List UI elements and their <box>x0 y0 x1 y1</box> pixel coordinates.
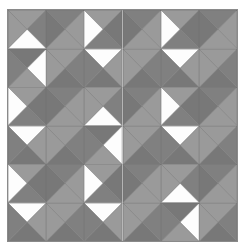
quilt-cell <box>8 10 46 49</box>
quilt-cell <box>46 126 84 165</box>
quilt-cell <box>199 164 237 203</box>
quilt-cell <box>123 10 161 49</box>
quilt-cell <box>84 87 122 126</box>
quilt-cell <box>8 87 46 126</box>
quilt-cell <box>46 10 84 49</box>
quilt-cell <box>46 203 84 242</box>
quilt-cell <box>123 203 161 242</box>
quilt-cell <box>8 203 46 242</box>
quilt-cell <box>84 203 122 242</box>
quilt-cell <box>161 126 199 165</box>
quilt-cell <box>199 49 237 88</box>
quilt-pattern-figure <box>0 0 244 250</box>
quilt-cell <box>8 164 46 203</box>
quilt-cell <box>84 164 122 203</box>
quilt-cell <box>123 87 161 126</box>
quilt-cell <box>199 203 237 242</box>
quilt-grid <box>8 10 237 241</box>
quilt-cell <box>8 49 46 88</box>
quilt-cell <box>84 49 122 88</box>
quilt-cell <box>123 49 161 88</box>
quilt-cell <box>199 126 237 165</box>
quilt-cell <box>8 126 46 165</box>
quilt-cell <box>123 164 161 203</box>
quilt-cell <box>199 87 237 126</box>
quilt-cell <box>46 164 84 203</box>
quilt-cell <box>161 164 199 203</box>
quilt-cell <box>84 10 122 49</box>
quilt-cell <box>161 10 199 49</box>
quilt-cell <box>46 49 84 88</box>
quilt-cell <box>84 126 122 165</box>
quilt-cell <box>161 87 199 126</box>
quilt-cell <box>199 10 237 49</box>
quilt-cell <box>161 203 199 242</box>
quilt-cell <box>46 87 84 126</box>
quilt-cell <box>123 126 161 165</box>
quilt-cell <box>161 49 199 88</box>
